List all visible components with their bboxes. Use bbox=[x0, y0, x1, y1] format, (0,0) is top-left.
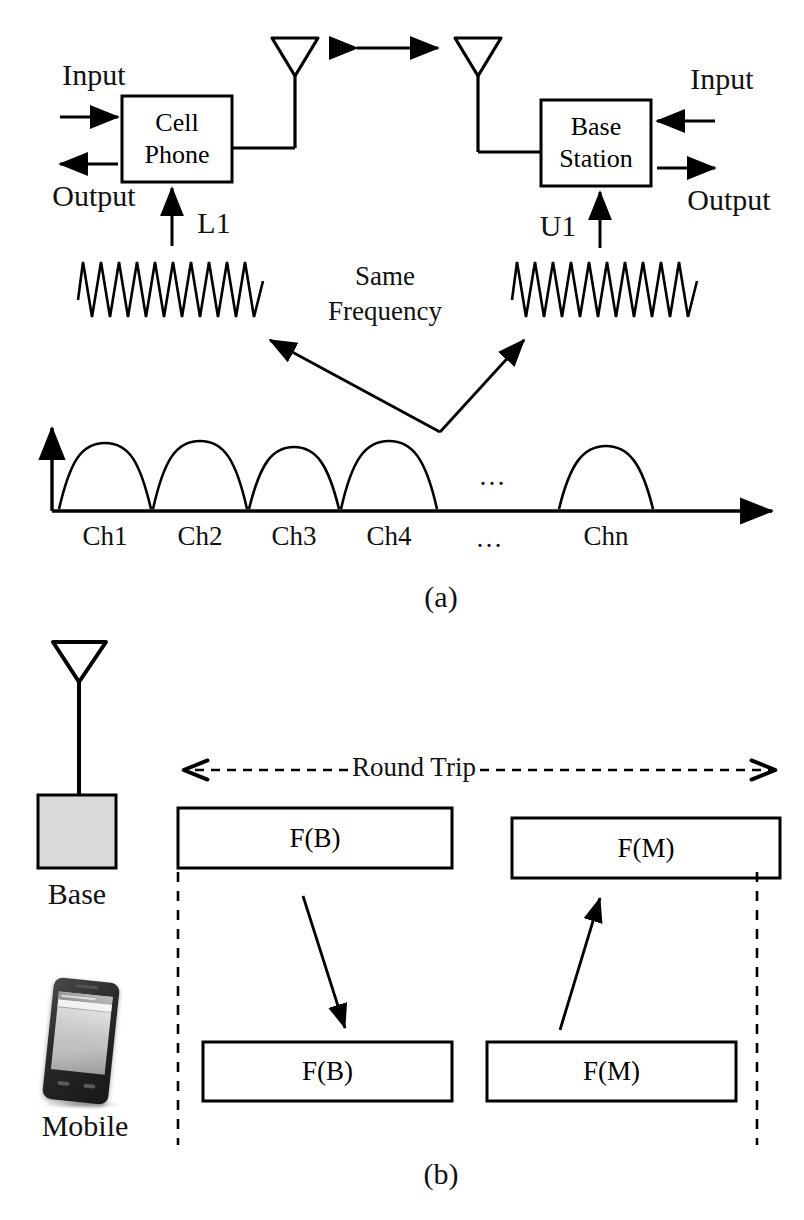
frame-label-bottom-fm: F(M) bbox=[487, 1042, 736, 1101]
spectrum-lobe-ch4 bbox=[341, 441, 437, 509]
spectrum-lobe-ch1 bbox=[59, 443, 151, 509]
channel-label-ch1: Ch1 bbox=[82, 522, 127, 550]
frame-label-bottom-fb: F(B) bbox=[203, 1042, 452, 1101]
channel-label-ch2: Ch2 bbox=[177, 522, 222, 550]
base-station-box-label: Base Station bbox=[541, 100, 651, 186]
round-trip-label: Round Trip bbox=[352, 753, 476, 781]
frame-label-top-fb-text: F(B) bbox=[289, 822, 340, 855]
spectrum-axes bbox=[52, 428, 772, 511]
frame-label-top-fm-text: F(M) bbox=[617, 832, 674, 865]
spectrum-lobe-ch2 bbox=[153, 441, 247, 509]
spectrum-lobe-ch3 bbox=[249, 447, 339, 509]
phone-screen-glare bbox=[51, 991, 113, 1074]
frame-label-top-fb: F(B) bbox=[178, 808, 452, 868]
base-station-output-label: Output bbox=[687, 184, 770, 216]
base-tower-icon bbox=[38, 642, 116, 868]
mobile-caption: Mobile bbox=[42, 1110, 129, 1142]
channel-mapping-arrows bbox=[270, 340, 524, 432]
channel-label-ch3: Ch3 bbox=[271, 522, 316, 550]
base-equipment-box bbox=[38, 795, 116, 868]
cell-phone-box-label-line1: Cell bbox=[155, 107, 198, 139]
downlink-waveform bbox=[78, 262, 263, 317]
channel-label-gap-ellipsis: … bbox=[476, 524, 503, 552]
channel-label-chn: Chn bbox=[583, 522, 628, 550]
cell-phone-antenna-icon bbox=[232, 38, 318, 148]
spectrum-plot-ellipsis: … bbox=[479, 462, 506, 490]
uplink-carrier-label: U1 bbox=[540, 210, 577, 242]
base-station-antenna-icon bbox=[455, 38, 541, 152]
frame-label-bottom-fb-text: F(B) bbox=[302, 1055, 353, 1088]
same-frequency-note-line1: Same bbox=[355, 262, 415, 290]
downlink-transfer-arrow bbox=[303, 896, 345, 1028]
cell-phone-input-label: Input bbox=[62, 59, 125, 91]
base-station-box-label-line2: Station bbox=[559, 143, 633, 175]
spectrum-lobes bbox=[59, 441, 653, 509]
cell-phone-box-label-line2: Phone bbox=[145, 139, 210, 171]
downlink-carrier-label: L1 bbox=[197, 207, 230, 239]
cell-phone-box-label: Cell Phone bbox=[122, 96, 232, 182]
base-station-box-label-line1: Base bbox=[571, 111, 622, 143]
uplink-waveform bbox=[512, 262, 697, 317]
cell-phone-output-label: Output bbox=[52, 180, 135, 212]
uplink-transfer-arrow bbox=[560, 898, 600, 1030]
same-frequency-note-line2: Frequency bbox=[328, 297, 442, 325]
spectrum-lobe-chn bbox=[559, 446, 653, 509]
mobile-phone-photo bbox=[42, 977, 120, 1105]
figure-canvas: Input Output Cell Phone L1 Input Output … bbox=[0, 0, 804, 1220]
channel-label-ch4: Ch4 bbox=[366, 522, 411, 550]
base-station-input-label: Input bbox=[690, 63, 753, 95]
frame-label-top-fm: F(M) bbox=[512, 818, 780, 878]
frame-label-bottom-fm-text: F(M) bbox=[583, 1055, 640, 1088]
panel-b-caption: (b) bbox=[424, 1158, 459, 1190]
panel-a-caption: (a) bbox=[424, 581, 457, 613]
base-caption: Base bbox=[48, 878, 106, 910]
